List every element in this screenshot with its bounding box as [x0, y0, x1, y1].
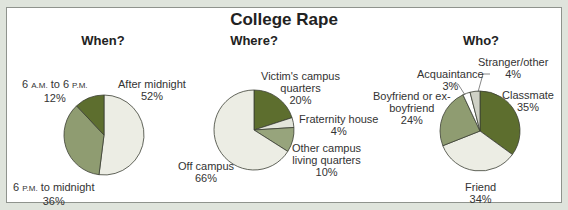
- where-label-victim-quarters: Victim's campusquarters20%: [261, 70, 340, 106]
- when-label-evening: 6 P.M. to midnight 36%: [13, 181, 94, 207]
- where-label-off-campus: Off campus66%: [178, 160, 234, 184]
- who-label-classmate: Classmate35%: [502, 89, 554, 113]
- when-label-after-midnight: After midnight52%: [118, 78, 186, 102]
- where-label-fraternity: Fraternity house4%: [299, 113, 378, 137]
- who-label-acquaintance: Acquaintance3%: [417, 68, 484, 92]
- when-label-day: 6 A.M. to 6 P.M. 12%: [22, 78, 88, 104]
- who-label-friend: Friend34%: [465, 181, 496, 205]
- who-label-boyfriend: Boyfriend or ex-boyfriend24%: [373, 90, 451, 126]
- who-label-stranger: Stranger/other4%: [478, 56, 548, 80]
- where-label-other-campus: Other campusliving quarters10%: [292, 142, 361, 178]
